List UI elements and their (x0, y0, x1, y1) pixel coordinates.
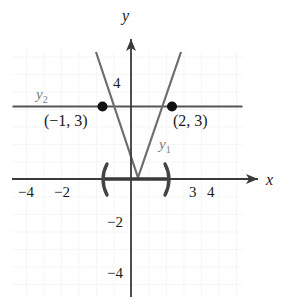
y-tick-neg2: −2 (107, 215, 123, 230)
x-tick-3: 3 (189, 185, 197, 200)
x-axis-label: x (266, 172, 273, 188)
intersection-label-right: (2, 3) (173, 113, 208, 129)
y-tick-4: 4 (113, 76, 121, 91)
y-tick-neg4: −4 (107, 266, 123, 281)
y2-function-label: y2 (36, 87, 48, 105)
intersection-point-right (167, 102, 177, 112)
y1-label-subscript: 1 (166, 144, 171, 155)
x-tick-4: 4 (207, 185, 215, 200)
y1-function-label: y1 (159, 137, 171, 155)
intersection-label-left: (−1, 3) (44, 113, 88, 129)
x-tick-neg4: −4 (18, 185, 34, 200)
y1-label-base: y (159, 136, 166, 152)
graph-figure: y x 4 −2 −4 −4 −2 3 4 (−1, 3) (2, 3) y2 … (0, 0, 288, 308)
x-tick-neg2: −2 (54, 185, 70, 200)
y2-label-base: y (36, 86, 43, 102)
graph-canvas (0, 0, 288, 308)
y2-label-subscript: 2 (43, 94, 48, 105)
intersection-point-left (98, 102, 108, 112)
y-axis-label: y (122, 8, 129, 24)
